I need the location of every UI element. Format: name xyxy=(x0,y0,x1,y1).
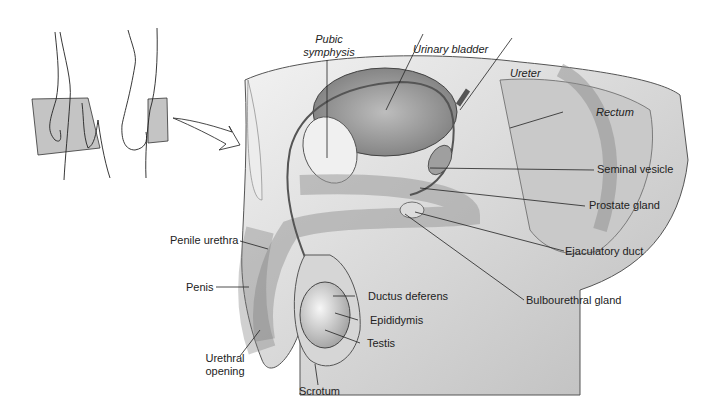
label-pubic-symphysis: Pubic symphysis xyxy=(300,33,358,59)
label-scrotum: Scrotum xyxy=(299,385,340,398)
label-line: opening xyxy=(202,365,248,378)
label-rectum: Rectum xyxy=(596,106,634,119)
label-line: Pubic xyxy=(300,33,358,46)
label-penis: Penis xyxy=(186,281,214,294)
label-line: Urethral xyxy=(202,352,248,365)
label-testis: Testis xyxy=(367,337,395,350)
label-seminal-vesicle: Seminal vesicle xyxy=(597,163,673,176)
label-ureter: Ureter xyxy=(510,67,541,80)
label-bulbourethral-gland: Bulbourethral gland xyxy=(526,294,621,307)
label-urinary-bladder: Urinary bladder xyxy=(413,43,488,56)
anatomy-figure: Pubic symphysis Urinary bladder Ureter R… xyxy=(0,0,703,405)
label-urethral-opening: Urethral opening xyxy=(202,352,248,378)
label-ejaculatory-duct: Ejaculatory duct xyxy=(565,245,643,258)
label-prostate-gland: Prostate gland xyxy=(589,199,660,212)
label-line: symphysis xyxy=(300,46,358,59)
label-penile-urethra: Penile urethra xyxy=(170,234,239,247)
label-epididymis: Epididymis xyxy=(370,314,423,327)
label-ductus-deferens: Ductus deferens xyxy=(368,290,448,303)
